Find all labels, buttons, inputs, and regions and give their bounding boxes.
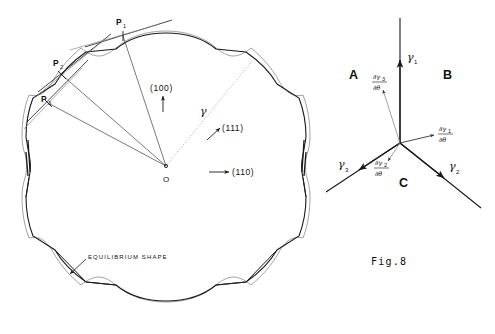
gamma1-symbol: γ — [407, 51, 414, 64]
tangent-lines — [27, 20, 172, 122]
torque-vector-gamma3 — [383, 90, 400, 143]
p1-letter: P — [116, 17, 122, 27]
figure-caption: Fig.8 — [371, 256, 407, 267]
gamma3-subscript: 3 — [345, 167, 349, 173]
torque-vector-gamma2 — [388, 143, 400, 161]
direction-111-arrow — [207, 128, 220, 140]
torque-label-gamma1: ∂γ 1 ∂θ — [438, 125, 453, 144]
torque-gamma1-numerator: ∂γ — [439, 125, 446, 133]
torque-gamma1-numerator-sub: 1 — [448, 128, 451, 134]
direction-111-text: (111) — [222, 123, 244, 133]
tangent-point-label-p3: P 3 — [41, 94, 51, 106]
tension-label-gamma1: γ 1 — [407, 51, 418, 65]
tangent-lines-light — [24, 24, 160, 129]
gamma2-subscript: 2 — [456, 169, 460, 175]
origin-label: O — [163, 175, 169, 184]
radius-lines-to-tangent-points — [48, 36, 166, 166]
direction-label-110: (110) — [209, 167, 254, 177]
figure-canvas: P 1 P 2 P 3 O (100) γ — [0, 0, 495, 334]
torque-gamma3-denominator: ∂θ — [373, 84, 380, 92]
triple-junction-panel: A B C γ 1 γ 2 γ 3 ∂γ 3 — [326, 18, 481, 267]
figure-container: P 1 P 2 P 3 O (100) γ — [0, 0, 495, 334]
tension-label-gamma3: γ 3 — [338, 158, 349, 173]
gamma2-symbol: γ — [449, 160, 456, 173]
p1-subscript: 1 — [123, 23, 126, 29]
equilibrium-shape-leader — [70, 259, 86, 274]
torque-label-gamma2: ∂γ 2 ∂θ — [374, 159, 389, 178]
gamma2-vector-arrow — [400, 143, 444, 178]
equilibrium-shape-text: EQUILIBRIUM SHAPE — [88, 254, 168, 260]
facet-segments — [26, 140, 306, 176]
wulff-construction-panel: P 1 P 2 P 3 O (100) γ — [22, 17, 310, 302]
tangent-point-label-p1: P 1 — [116, 17, 126, 29]
gamma-symbol-label: γ — [200, 105, 207, 118]
dotted-111-radius — [166, 60, 253, 166]
torque-gamma1-denominator: ∂θ — [439, 136, 446, 144]
p3-subscript: 3 — [48, 100, 51, 106]
torque-vector-gamma1 — [400, 135, 434, 143]
torque-gamma2-numerator: ∂γ — [375, 159, 382, 167]
torque-gamma2-denominator: ∂θ — [375, 170, 382, 178]
direction-label-100: (100) — [150, 83, 173, 112]
region-label-b: B — [443, 68, 452, 82]
torque-gamma2-numerator-sub: 2 — [384, 162, 387, 168]
direction-110-text: (110) — [232, 167, 254, 177]
equilibrium-shape-curve — [26, 33, 306, 301]
gamma-plot-curve — [22, 31, 310, 302]
gamma1-subscript: 1 — [414, 59, 418, 65]
gamma3-symbol: γ — [338, 158, 345, 171]
region-label-c: C — [399, 176, 408, 190]
torque-gamma3-numerator-sub: 3 — [382, 76, 385, 82]
p2-subscript: 2 — [60, 64, 63, 70]
p2-letter: P — [53, 58, 59, 68]
torque-label-gamma3: ∂γ 3 ∂θ — [372, 73, 387, 92]
region-label-a: A — [349, 68, 358, 82]
tension-label-gamma2: γ 2 — [449, 160, 460, 175]
equilibrium-facet-lines — [26, 178, 306, 285]
direction-100-text: (100) — [150, 83, 173, 93]
tangent-point-label-p2: P 2 — [53, 58, 63, 70]
torque-gamma3-numerator: ∂γ — [373, 73, 380, 81]
equilibrium-shape-annotation: EQUILIBRIUM SHAPE — [70, 254, 168, 274]
p3-letter: P — [41, 94, 47, 104]
direction-label-111: (111) — [207, 123, 244, 140]
